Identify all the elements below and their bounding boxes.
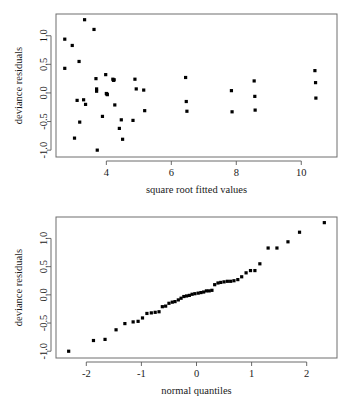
data-point xyxy=(210,289,213,292)
y-axis: 1.00.50.0-0.5-1.0 xyxy=(38,29,51,158)
x-tick-label: 0 xyxy=(194,368,199,379)
y-tick-label: 0.0 xyxy=(38,86,49,99)
data-point xyxy=(179,297,182,300)
data-points-group xyxy=(63,18,317,152)
y-tick-label: -0.5 xyxy=(38,315,49,332)
data-point xyxy=(67,350,70,353)
data-point xyxy=(161,305,164,308)
residuals-vs-fitted-figure: 46810square root fitted values1.00.50.0-… xyxy=(0,0,355,205)
data-point xyxy=(254,108,257,111)
data-point xyxy=(120,118,123,121)
data-point xyxy=(82,98,85,101)
data-point xyxy=(150,311,153,314)
x-tick-label: 10 xyxy=(296,167,307,178)
data-point xyxy=(177,298,180,301)
residuals-vs-fitted-plot: 46810square root fitted values1.00.50.0-… xyxy=(0,0,355,205)
data-point xyxy=(253,95,256,98)
data-point xyxy=(113,78,116,81)
data-point xyxy=(103,338,106,341)
plot-panel-border xyxy=(56,217,337,358)
data-point xyxy=(249,269,252,272)
data-point xyxy=(244,271,247,274)
data-point xyxy=(213,283,216,286)
data-point xyxy=(193,292,196,295)
data-point xyxy=(63,67,66,70)
data-point xyxy=(216,281,219,284)
y-axis: 1.00.50.0-0.5-1.0 xyxy=(38,232,51,360)
data-point xyxy=(132,320,135,323)
data-point xyxy=(219,281,222,284)
data-point xyxy=(63,38,66,41)
data-point xyxy=(236,278,239,281)
data-point xyxy=(84,103,87,106)
data-point xyxy=(190,293,193,296)
data-point xyxy=(222,280,225,283)
data-point xyxy=(185,110,188,113)
x-axis: 46810 xyxy=(104,161,307,178)
y-tick-label: 0.5 xyxy=(38,58,49,71)
data-point xyxy=(154,311,157,314)
y-axis-title: deviance residuals xyxy=(13,47,24,124)
data-point xyxy=(104,73,107,76)
x-tick-label: -2 xyxy=(82,368,91,379)
data-point xyxy=(142,88,145,91)
data-point xyxy=(313,69,316,72)
data-point xyxy=(298,231,301,234)
x-axis-title: normal quantiles xyxy=(161,385,231,396)
data-point xyxy=(73,137,76,140)
data-point xyxy=(96,149,99,152)
data-point xyxy=(121,138,124,141)
data-point xyxy=(314,96,317,99)
data-point xyxy=(83,18,86,21)
y-tick-label: -1.0 xyxy=(38,142,49,159)
data-point xyxy=(114,328,117,331)
x-tick-label: 6 xyxy=(169,167,174,178)
data-point xyxy=(78,121,81,124)
data-point xyxy=(267,246,270,249)
data-point xyxy=(118,127,121,130)
x-tick-label: -1 xyxy=(137,368,146,379)
data-point xyxy=(230,89,233,92)
data-point xyxy=(101,115,104,118)
data-point xyxy=(229,280,232,283)
data-point xyxy=(185,294,188,297)
data-point xyxy=(258,262,261,265)
data-point xyxy=(171,301,174,304)
data-point xyxy=(240,275,243,278)
data-point xyxy=(253,79,256,82)
x-tick-label: 8 xyxy=(234,167,239,178)
data-point xyxy=(323,221,326,224)
y-tick-label: 1.0 xyxy=(38,232,49,245)
data-point xyxy=(197,292,200,295)
data-point xyxy=(106,93,109,96)
data-point xyxy=(205,289,208,292)
y-tick-label: 0.0 xyxy=(38,288,49,301)
normal-qq-plot: -2-1012normal quantiles1.00.50.0-0.5-1.0… xyxy=(0,203,355,417)
data-point xyxy=(113,103,116,106)
y-tick-label: 0.5 xyxy=(38,260,49,273)
data-point xyxy=(133,78,136,81)
x-axis-title: square root fitted values xyxy=(146,184,247,195)
data-point xyxy=(77,60,80,63)
data-point xyxy=(184,76,187,79)
data-point xyxy=(314,81,317,84)
data-point xyxy=(173,300,176,303)
normal-qq-figure: -2-1012normal quantiles1.00.50.0-0.5-1.0… xyxy=(0,203,355,417)
data-point xyxy=(275,246,278,249)
y-axis-title: deviance residuals xyxy=(13,249,24,326)
x-tick-label: 4 xyxy=(104,167,110,178)
data-point xyxy=(230,110,233,113)
data-point xyxy=(188,294,191,297)
data-point xyxy=(92,339,95,342)
data-point xyxy=(157,310,160,313)
data-point xyxy=(226,280,229,283)
data-point xyxy=(95,90,98,93)
x-tick-label: 1 xyxy=(249,368,254,379)
data-point xyxy=(123,322,126,325)
data-point xyxy=(135,87,138,90)
data-point xyxy=(71,44,74,47)
data-point xyxy=(131,119,134,122)
data-point xyxy=(136,320,139,323)
data-points-group xyxy=(67,221,326,353)
data-point xyxy=(182,295,185,298)
